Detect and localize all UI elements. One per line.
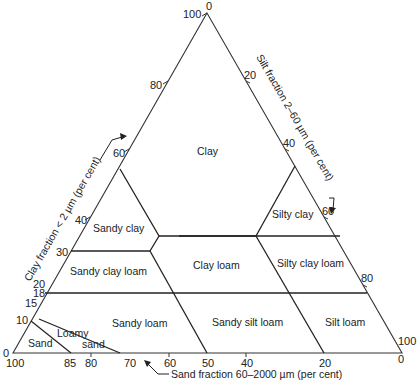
silt-tick-0: 0 <box>206 0 212 12</box>
clay-axis-title: Clay fraction < 2 µm (per cent) <box>21 154 102 283</box>
clay-arrowhead-icon <box>120 133 127 140</box>
region-loamy-sand-line2: sand <box>82 338 105 350</box>
boundary-silt-loam-left <box>256 236 324 353</box>
clay-axis: 100 80 60 40 30 20 18 15 10 0 <box>3 8 207 359</box>
boundary-sandy-clay <box>120 169 159 251</box>
sand-tick-0: 0 <box>398 353 404 365</box>
region-sandy-loam: Sandy loam <box>112 317 168 329</box>
sand-axis-title: Sand fraction 60–2000 µm (per cent) <box>171 368 342 380</box>
sand-tick-85: 85 <box>64 357 76 369</box>
region-sandy-silt-loam: Sandy silt loam <box>212 316 283 328</box>
region-sandy-clay-loam: Sandy clay loam <box>70 265 147 277</box>
sand-tick-100: 100 <box>6 357 24 369</box>
silt-tick-80: 80 <box>361 272 373 284</box>
sand-tick-80: 80 <box>85 357 97 369</box>
region-silty-clay: Silty clay <box>272 208 314 220</box>
soil-texture-triangle: 100 80 60 40 30 20 18 15 10 0 0 20 40 60… <box>0 0 419 385</box>
clay-tick-80: 80 <box>150 79 162 91</box>
region-clay-loam: Clay loam <box>193 259 240 271</box>
clay-tick-40: 40 <box>75 214 87 226</box>
clay-tick-100: 100 <box>183 8 201 20</box>
boundary-silty-clay <box>256 166 295 236</box>
sand-axis: 100 85 80 70 60 50 40 20 0 <box>6 353 404 369</box>
clay-tick-10: 10 <box>16 314 28 326</box>
region-silt-loam: Silt loam <box>325 316 366 328</box>
clay-tick-60: 60 <box>113 147 125 159</box>
region-clay: Clay <box>197 145 219 157</box>
region-sand: Sand <box>28 337 53 349</box>
silt-tick-100: 100 <box>398 335 416 347</box>
silt-tick-20: 20 <box>244 69 256 81</box>
sand-tick-70: 70 <box>124 357 136 369</box>
silt-axis: 0 20 40 60 80 100 <box>206 0 416 347</box>
region-silty-clay-loam: Silty clay loam <box>277 257 344 269</box>
triangle-outline <box>13 13 402 353</box>
clay-tick-15: 15 <box>25 297 37 309</box>
region-sandy-clay: Sandy clay <box>93 222 145 234</box>
clay-tick-30: 30 <box>56 246 68 258</box>
silt-tick-40: 40 <box>283 137 295 149</box>
